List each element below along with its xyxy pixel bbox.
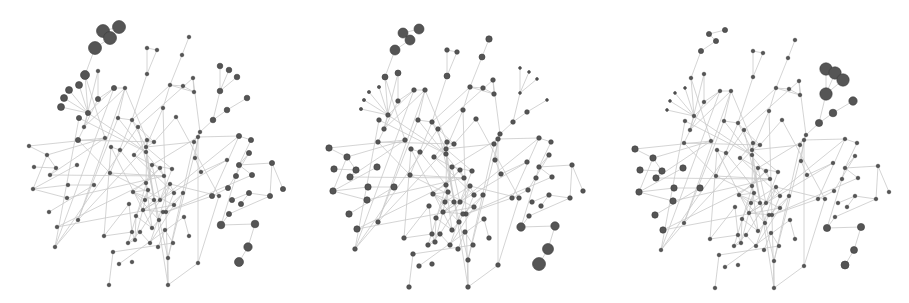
graph-edge <box>878 166 889 192</box>
graph-node <box>217 221 225 229</box>
graph-node <box>152 140 156 144</box>
graph-node <box>718 89 722 93</box>
graph-node <box>832 189 836 193</box>
graph-node <box>551 222 559 230</box>
graph-node <box>367 90 370 93</box>
graph-node <box>698 48 703 53</box>
graph-node <box>452 200 457 205</box>
graph-edge <box>84 88 125 127</box>
graph-node <box>752 191 756 195</box>
graph-node <box>761 51 765 55</box>
graph-node <box>498 132 503 137</box>
graph-node <box>804 133 808 137</box>
graph-node <box>737 193 741 197</box>
graph-node <box>833 215 837 219</box>
graph-node <box>543 244 554 255</box>
graph-node <box>764 169 768 173</box>
graph-node <box>172 191 176 195</box>
graph-edge <box>724 121 738 123</box>
graph-node <box>217 63 223 69</box>
graph-node <box>382 74 388 80</box>
graph-node <box>732 244 736 248</box>
graph-edge <box>425 90 447 142</box>
graph-node <box>671 185 677 191</box>
graph-node <box>76 115 81 120</box>
graph-edge <box>418 90 425 120</box>
graph-edge <box>539 165 572 167</box>
graph-node <box>248 137 253 142</box>
graph-node <box>92 183 96 187</box>
graph-edge <box>498 138 539 139</box>
graph-node <box>526 188 531 193</box>
graph-node <box>798 143 802 147</box>
graph-edge <box>152 137 198 165</box>
graph-node <box>359 107 362 110</box>
graph-node <box>736 263 740 267</box>
graph-node <box>763 221 767 225</box>
graph-node <box>45 153 49 157</box>
graph-edge <box>639 192 673 201</box>
graph-node <box>89 42 102 55</box>
graph-node <box>192 90 196 94</box>
graph-node <box>674 92 677 95</box>
graph-node <box>570 163 575 168</box>
graph-node <box>856 176 860 180</box>
graph-node <box>162 174 166 178</box>
graph-node <box>547 193 552 198</box>
graph-node <box>209 193 214 198</box>
graph-node <box>461 108 466 113</box>
graph-node <box>463 230 468 235</box>
graph-node <box>138 230 142 234</box>
network-graph-middle <box>300 0 600 303</box>
graph-node <box>749 201 753 205</box>
graph-node <box>32 165 36 169</box>
graph-node <box>829 109 837 117</box>
graph-node <box>777 244 781 248</box>
graph-node <box>246 150 251 155</box>
graph-node <box>455 50 460 55</box>
graph-node <box>493 158 498 163</box>
graph-edge <box>774 145 800 261</box>
graph-edge <box>690 91 731 130</box>
graph-node <box>168 83 172 87</box>
graph-node <box>430 262 435 267</box>
graph-edge <box>476 119 519 198</box>
graph-node <box>659 248 663 252</box>
graph-node <box>161 106 165 110</box>
graph-node <box>191 76 195 80</box>
graph-node <box>53 245 57 249</box>
graph-node <box>517 223 525 231</box>
graph-node <box>740 217 744 221</box>
graph-node <box>772 259 776 263</box>
graph-node <box>416 118 421 123</box>
graph-node <box>788 218 792 222</box>
graph-node <box>438 232 443 237</box>
graph-edge <box>118 88 125 118</box>
graph-edge <box>776 58 788 88</box>
graph-edge <box>655 188 700 215</box>
graph-node <box>652 212 658 218</box>
graph-edge <box>493 80 500 134</box>
graph-node <box>377 118 382 123</box>
graph-node <box>66 183 70 187</box>
graph-node <box>799 159 803 163</box>
graph-node <box>706 31 711 36</box>
graph-node <box>365 184 371 190</box>
graph-node <box>233 173 238 178</box>
graph-node <box>684 87 687 90</box>
graph-node <box>820 88 832 100</box>
graph-edge <box>64 98 88 113</box>
graph-edge <box>227 98 247 110</box>
graph-node <box>762 248 766 252</box>
graph-node <box>168 182 172 186</box>
graph-node <box>549 140 554 145</box>
graph-node <box>180 53 184 57</box>
graph-node <box>133 238 137 242</box>
graph-node <box>744 233 748 237</box>
graph-node <box>525 110 530 115</box>
graph-node <box>472 193 477 198</box>
graph-edge <box>710 235 738 239</box>
graph-node <box>234 74 240 80</box>
graph-edge <box>715 255 719 288</box>
graph-node <box>104 32 117 45</box>
